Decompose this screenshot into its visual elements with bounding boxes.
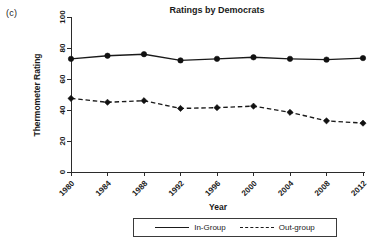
x-tick-label: 2012 (349, 179, 368, 198)
data-point-marker (104, 99, 110, 105)
line-chart-plot: 020406080100 198019841988199219962000200… (0, 0, 373, 251)
legend-entry-in-group: In-Group (155, 223, 226, 232)
x-tick-group: 198019841988199219962000200420082012 (57, 172, 368, 198)
x-tick-label: 1996 (203, 179, 222, 198)
data-point-marker (141, 98, 147, 104)
legend-line-dashed-icon (240, 227, 274, 228)
data-point-marker (68, 95, 74, 101)
y-tick-group: 020406080100 (58, 10, 71, 174)
data-point-marker (360, 55, 365, 60)
x-tick-label: 1988 (130, 179, 149, 198)
x-tick-label: 1984 (94, 179, 113, 198)
data-point-marker (360, 120, 366, 126)
data-point-marker (178, 58, 183, 63)
data-point-marker (287, 56, 292, 61)
y-tick-label: 60 (58, 74, 67, 83)
y-tick-label: 0 (58, 169, 67, 174)
data-point-marker (324, 57, 329, 62)
data-point-marker (250, 103, 256, 109)
markers-layer (68, 52, 366, 127)
data-point-marker (68, 56, 73, 61)
y-tick-label: 100 (58, 10, 67, 24)
series-layer (71, 54, 363, 123)
data-point-marker (105, 53, 110, 58)
legend-line-solid-icon (155, 227, 189, 228)
data-point-marker (251, 55, 256, 60)
y-tick-label: 20 (58, 136, 67, 145)
data-point-marker (214, 56, 219, 61)
data-point-marker (214, 105, 220, 111)
x-tick-label: 1992 (167, 179, 186, 198)
data-point-marker (287, 109, 293, 115)
y-axis-title: Thermometer Rating (32, 53, 42, 136)
x-tick-label: 2004 (276, 179, 295, 198)
x-tick-label: 1980 (57, 179, 76, 198)
y-tick-label: 40 (58, 105, 67, 114)
x-tick-label: 2008 (313, 179, 332, 198)
data-point-marker (177, 105, 183, 111)
x-tick-label: 2000 (240, 179, 259, 198)
y-tick-label: 80 (58, 43, 67, 52)
data-point-marker (141, 52, 146, 57)
chart-legend: In-Group Out-group (133, 218, 337, 237)
legend-label-out-group: Out-group (279, 223, 315, 232)
legend-label-in-group: In-Group (194, 223, 226, 232)
legend-entry-out-group: Out-group (240, 223, 315, 232)
figure-panel: (c) Ratings by Democrats 020406080100 19… (0, 0, 373, 251)
x-axis-title: Year (209, 202, 228, 212)
data-point-marker (323, 118, 329, 124)
axes-group (71, 17, 365, 172)
